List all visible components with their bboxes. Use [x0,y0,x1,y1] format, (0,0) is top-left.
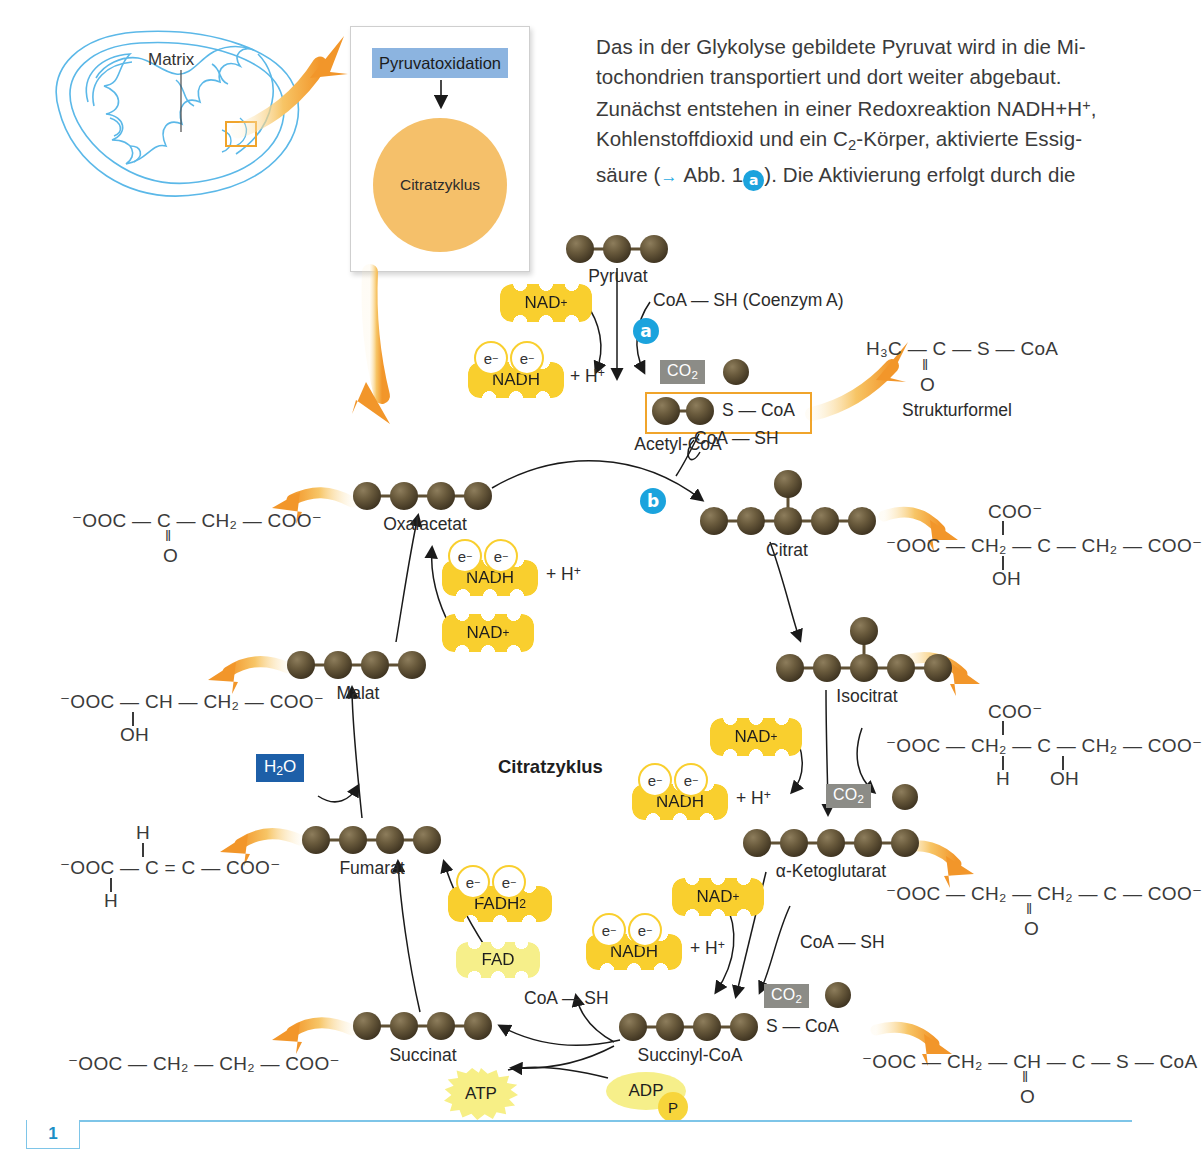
step-marker-b: b [640,488,666,514]
step-marker-a: a [633,318,659,344]
electron-icon-10: e− [492,865,526,899]
coa-sh-released-a: CoA — SH [694,428,779,449]
chain-oxalacetat [353,482,492,510]
formula-acetyl-coa-bond: ‖ [922,356,929,373]
formula-oxalacetat-main: ⁻OOC — C — CH₂ — COO⁻ [72,509,322,532]
e-label: e [520,350,528,367]
electron-icon-9: e− [456,865,490,899]
formula-isocitrat-upper: COO⁻ [988,700,1043,723]
formula-isocitrat-bond-upper [1002,721,1004,735]
label-isocitrat: Isocitrat [812,686,922,707]
e-label: e [484,350,492,367]
nad-plus-ketoglutarate: NAD+ [672,878,764,916]
intro-line-4b: Abb. 1 [683,163,743,186]
carbon-sphere-co2-a [723,359,749,385]
formula-isocitrat-lower-left: H [996,768,1010,790]
formula-ketoglutarat-bond: ‖ [1026,900,1033,917]
formula-fumarat-bond-top [142,843,144,857]
electron-icon-7: e− [592,913,626,947]
label-oxalacetat: Oxalacetat [370,514,480,535]
formula-succinyl-coa-bottom: O [1020,1086,1035,1108]
chain-pyruvat [566,235,668,263]
matrix-label: Matrix [148,50,194,70]
nad-plus-label: NAD [525,293,561,313]
chain-fumarat [302,826,441,854]
coa-sh-coenzyme-a: CoA — SH (Coenzym A) [653,290,844,311]
chain-isocitrat [776,617,952,682]
plus-h-malate: + H+ [546,564,581,585]
formula-malat-main: ⁻OOC — CH — CH₂ — COO⁻ [60,690,324,713]
nad-plus-pyruvate: NAD+ [500,284,592,322]
carbon-sphere-co2-c [825,982,851,1008]
label-succinyl-coa: Succinyl-CoA [620,1045,760,1066]
plus-h-isocitrate: + H+ [736,788,771,809]
e-sup: − [492,352,498,364]
plus-h-pyruvate: + H+ [570,366,605,387]
electron-icon-4: e− [484,539,518,573]
carbon-sphere-co2-b [892,784,918,810]
intro-line-4c: ). Die Aktivierung erfolgt durch die [764,163,1075,186]
plus-h-ketoglutarate: + H+ [690,938,725,959]
electron-icon-3: e− [448,539,482,573]
pyruvate-oxidation-box: Pyruvatoxidation [372,48,508,78]
coa-sh-succinyl: CoA — SH [524,988,609,1009]
electron-icon-6: e− [674,763,708,797]
label-succinat: Succinat [366,1045,480,1066]
chain-citrat [700,470,876,535]
formula-citrat-main: ⁻OOC — CH₂ — C — CH₂ — COO⁻ [886,534,1202,557]
electron-icon-1: e− [474,341,508,375]
chain-malat [287,651,426,679]
intro-paragraph: Das in der Glykolyse gebildete Pyruvat w… [596,32,1152,191]
intro-line-3b: +H [1055,97,1082,120]
intro-c2-sub: 2 [848,136,856,152]
formula-citrat-bond-upper [1002,521,1004,535]
chain-succinyl-coa [619,1013,758,1041]
electron-icon-5: e− [638,763,672,797]
strukturformel-caption: Strukturformel [872,400,1042,421]
formula-succinat-main: ⁻OOC — CH₂ — CH₂ — COO⁻ [68,1052,340,1075]
co2-badge-a: CO2 [660,360,705,384]
formula-fumarat-top: H [136,822,150,844]
formula-fumarat-bottom: H [104,890,118,912]
inset-arrow [432,80,450,116]
formula-succinyl-coa-main: ⁻OOC — CH₂ — CH — C — S — CoA [862,1050,1197,1073]
atp-badge: ATP [444,1068,518,1120]
formula-isocitrat-lower-right: OH [1050,768,1079,790]
formula-ketoglutarat-main: ⁻OOC — CH₂ — CH₂ — C — COO⁻ [886,882,1202,905]
electron-icon-8: e− [628,913,662,947]
chain-succinat [353,1012,492,1040]
e-sup: − [528,352,534,364]
intro-line-3-sup: + [1082,97,1090,113]
h2o-badge: H2O [256,754,304,782]
succinyl-coa-tail: S — CoA [766,1016,839,1037]
formula-ketoglutarat-bottom: O [1024,918,1039,940]
formula-acetyl-coa-bottom: O [920,374,935,396]
citrate-cycle-circle: Citratzyklus [373,118,507,252]
chain-ketoglutarat [743,829,919,857]
electron-icon-2: e− [510,341,544,375]
formula-isocitrat-main: ⁻OOC — CH₂ — C — CH₂ — COO⁻ [886,734,1202,757]
intro-line-1: Das in der Glykolyse gebildete Pyruvat w… [596,35,1086,58]
formula-oxalacetat-bond: ‖ [165,527,172,544]
nad-plus-sup: + [560,296,567,310]
formula-citrat-upper: COO⁻ [988,500,1043,523]
label-citrat: Citrat [742,540,832,561]
formula-acetyl-coa-top: H₃C — C — S — CoA [866,338,1058,360]
reference-arrow-icon: → [661,167,678,186]
cycle-title: Citratzyklus [498,756,603,778]
figure-number-box: 1 [26,1120,80,1149]
formula-oxalacetat-bottom: O [163,545,178,567]
intro-line-3a: Zunächst entstehen in einer Redoxreaktio… [596,97,1055,120]
label-ketoglutarat: α-Ketoglutarat [746,861,916,882]
formula-malat-lower: OH [120,724,149,746]
inline-marker-a: a [743,170,764,191]
intro-line-4a: säure ( [596,163,661,186]
nad-plus-malate: NAD+ [442,614,534,652]
coa-sh-ketoglutarate: CoA — SH [800,932,885,953]
nad-plus-isocitrate: NAD+ [710,718,802,756]
formula-succinyl-coa-bond: ‖ [1022,1068,1029,1085]
fad-badge: FAD [456,942,540,978]
footer-rule [26,1120,1132,1122]
acetyl-coa-tail: S — CoA [722,400,795,421]
formula-fumarat-main: ⁻OOC — C = C — COO⁻ [60,856,281,879]
